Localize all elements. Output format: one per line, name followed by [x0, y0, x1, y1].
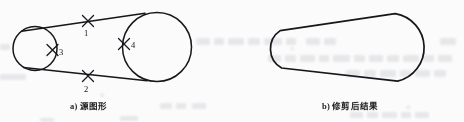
figure-a-caption: a) 源图形 [70, 99, 107, 111]
marker-label-3: 3 [59, 47, 63, 57]
marker-label-1: 1 [84, 28, 88, 38]
figure-b-caption: b) 修剪后结果 [322, 99, 378, 111]
marker-label-2: 2 [84, 84, 88, 94]
